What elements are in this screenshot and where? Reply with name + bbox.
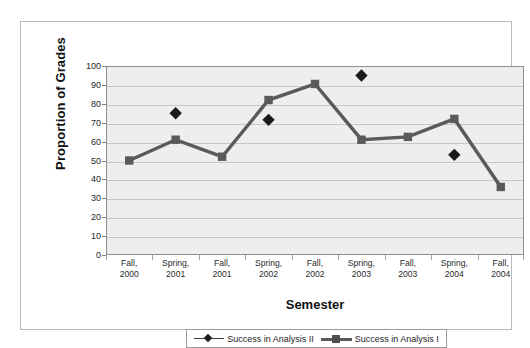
y-tick-label: 70 [91, 118, 101, 128]
legend-label-analysis-i: Success in Analysis I [355, 334, 439, 344]
data-point-diamond [262, 114, 274, 126]
data-point-square [357, 136, 365, 144]
data-point-square [404, 133, 412, 141]
legend-label-analysis-ii: Success in Analysis II [227, 334, 314, 344]
y-tick-label: 100 [86, 61, 101, 71]
x-axis-title: Semester [106, 297, 524, 312]
data-point-square [125, 156, 133, 164]
data-point-square [171, 136, 179, 144]
data-point-diamond [355, 69, 367, 81]
data-point-diamond [169, 107, 181, 119]
y-tick-label: 60 [91, 137, 101, 147]
x-axis: Fall,2000Spring,2001Fall,2001Spring,2002… [106, 258, 524, 292]
data-point-diamond [448, 149, 460, 161]
y-tick-label: 30 [91, 193, 101, 203]
y-tick-label: 10 [91, 231, 101, 241]
chart-frame: Proportion of Grades 1009080706050403020… [20, 21, 512, 330]
y-tick-label: 40 [91, 174, 101, 184]
legend-entry-analysis-ii[interactable]: Success in Analysis II [194, 334, 314, 344]
data-point-square [450, 115, 458, 123]
x-tick-label: Spring,2003 [338, 258, 384, 292]
diamond-marker-icon [194, 334, 224, 343]
y-tick-label: 0 [96, 250, 101, 260]
data-point-square [497, 183, 505, 191]
x-tick-label: Spring,2004 [431, 258, 477, 292]
square-marker-icon [321, 334, 352, 344]
x-tick-label: Fall,2000 [106, 258, 152, 292]
y-tick-label: 50 [91, 156, 101, 166]
x-tick-label: Spring,2002 [245, 258, 291, 292]
data-point-square [311, 80, 319, 88]
y-tick-label: 20 [91, 212, 101, 222]
series-line [129, 84, 501, 187]
y-axis-title: Proportion of Grades [53, 9, 68, 199]
y-axis: 1009080706050403020100 [73, 58, 105, 263]
x-tick-label: Fall,2003 [385, 258, 431, 292]
y-tick-label: 90 [91, 80, 101, 90]
legend-entry-analysis-i[interactable]: Success in Analysis I [321, 334, 439, 344]
data-point-square [218, 153, 226, 161]
x-tick-label: Fall,2004 [478, 258, 524, 292]
x-tick-label: Spring,2001 [152, 258, 198, 292]
x-tick-label: Fall,2001 [199, 258, 245, 292]
chart-legend: Success in Analysis II Success in Analys… [186, 329, 447, 348]
series-layer [106, 66, 524, 255]
data-point-square [264, 96, 272, 104]
x-tick-label: Fall,2002 [292, 258, 338, 292]
y-tick-label: 80 [91, 99, 101, 109]
